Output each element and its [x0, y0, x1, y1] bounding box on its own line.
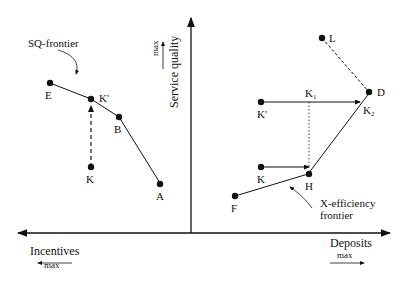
- label-k-right: K: [257, 173, 265, 185]
- y-max-label: max: [150, 40, 160, 56]
- sq-frontier-pointer-icon: [58, 50, 77, 74]
- label-a: A: [156, 190, 164, 202]
- point-k-prime-right: [258, 99, 264, 105]
- label-k-prime-right: K': [257, 108, 267, 120]
- x-efficiency-label-2: frontier: [320, 209, 353, 221]
- x-efficiency-frontier-line: [235, 92, 370, 196]
- x-left-label: Incentives: [30, 244, 80, 258]
- point-d: [366, 89, 372, 95]
- left-panel: SQ-frontier E K' B K A: [28, 37, 164, 202]
- right-panel: L D K1 K2 K' K H F X-efficiency frontier: [231, 32, 385, 221]
- label-k-prime-left: K': [99, 92, 109, 104]
- label-b: B: [114, 123, 121, 135]
- x-efficiency-label-1: X-efficiency: [320, 197, 376, 209]
- label-d: D: [377, 86, 385, 98]
- x-left-max-label: max: [44, 260, 60, 270]
- point-a: [157, 181, 163, 187]
- x-right-label: Deposits: [330, 236, 372, 250]
- sq-frontier-label: SQ-frontier: [28, 37, 79, 49]
- l-to-d-dashed-line: [322, 38, 369, 92]
- y-axis-label: Service quality: [167, 36, 181, 108]
- label-e: E: [45, 89, 52, 101]
- label-k-left: K: [86, 173, 94, 185]
- label-k1: K1: [305, 87, 317, 101]
- point-k-right: [258, 164, 264, 170]
- point-k-left: [88, 164, 94, 170]
- point-l: [319, 35, 325, 41]
- point-f: [232, 193, 238, 199]
- diagram: Service quality max Incentives max Depos…: [0, 0, 405, 281]
- label-l: L: [329, 32, 336, 44]
- x-right-max-label: max: [337, 250, 353, 260]
- label-f: F: [231, 202, 237, 214]
- point-e: [47, 80, 53, 86]
- label-k2: K2: [363, 104, 375, 118]
- label-h: H: [305, 180, 313, 192]
- point-k-prime-left: [88, 96, 94, 102]
- point-b: [116, 114, 122, 120]
- point-h: [306, 171, 312, 177]
